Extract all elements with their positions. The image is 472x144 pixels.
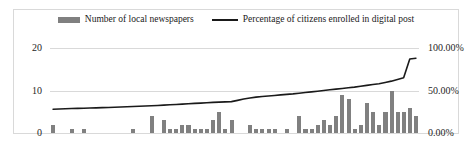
bar (217, 112, 221, 133)
bar (396, 112, 400, 133)
bar (273, 129, 277, 133)
bar (322, 120, 326, 133)
bar (260, 129, 264, 133)
bar (186, 125, 190, 134)
gridline (50, 133, 419, 134)
bar (353, 129, 357, 133)
bar (347, 99, 351, 133)
bar (168, 129, 172, 133)
bar (402, 112, 406, 133)
bar (383, 112, 387, 133)
bar (414, 116, 418, 133)
bar (267, 129, 271, 133)
bar (254, 129, 258, 133)
bar (205, 129, 209, 133)
bar (180, 125, 184, 134)
chart-container: Number of local newspapers Percentage of… (13, 9, 459, 134)
bar (193, 129, 197, 133)
bar (223, 129, 227, 133)
bar (310, 129, 314, 133)
bar (199, 129, 203, 133)
legend-label-bars: Number of local newspapers (85, 15, 194, 25)
y-axis-right-tick: 100.00% (428, 43, 464, 53)
bar (248, 125, 252, 134)
bar (328, 125, 332, 134)
y-axis-left: 01020 (14, 48, 46, 133)
bar (51, 125, 55, 134)
chart-legend: Number of local newspapers Percentage of… (14, 15, 458, 25)
bar-series (50, 48, 419, 133)
bar (211, 120, 215, 133)
bar (377, 125, 381, 134)
y-axis-left-tick: 0 (37, 128, 42, 138)
bar (162, 120, 166, 133)
y-axis-left-tick: 20 (32, 43, 42, 53)
y-axis-left-tick: 10 (32, 86, 42, 96)
bar (70, 129, 74, 133)
legend-bar-swatch-icon (58, 17, 80, 23)
bar (303, 129, 307, 133)
y-axis-right: 0.00%50.00%100.00% (423, 48, 472, 133)
bar (285, 129, 289, 133)
y-axis-right-tick: 0.00% (428, 128, 454, 138)
plot-area (50, 48, 419, 133)
bar (82, 129, 86, 133)
bar (359, 125, 363, 134)
bar (365, 103, 369, 133)
legend-item-bars: Number of local newspapers (58, 15, 194, 25)
legend-line-swatch-icon (212, 19, 238, 21)
y-axis-right-tick: 50.00% (428, 86, 459, 96)
bar (150, 116, 154, 133)
bar-slot (413, 48, 419, 133)
bar (340, 95, 344, 133)
bar (297, 116, 301, 133)
bar (408, 108, 412, 134)
bar (390, 91, 394, 134)
bar (174, 129, 178, 133)
legend-item-line: Percentage of citizens enrolled in digit… (212, 15, 414, 25)
legend-label-line: Percentage of citizens enrolled in digit… (243, 15, 414, 25)
bar (230, 120, 234, 133)
bar (316, 125, 320, 134)
bar (131, 129, 135, 133)
bar (334, 116, 338, 133)
bar (371, 112, 375, 133)
